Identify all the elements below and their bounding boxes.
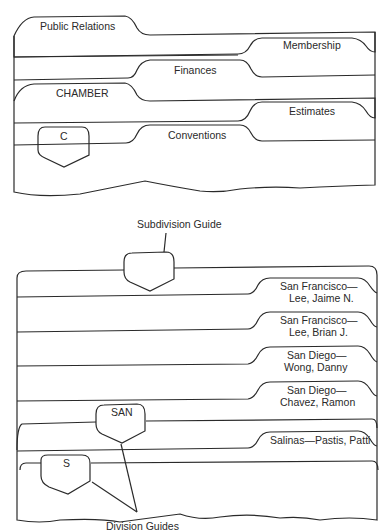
guide-label-c: C xyxy=(60,130,68,142)
tab-label-membership: Membership xyxy=(283,39,341,51)
annotation-subdivision-guide: Subdivision Guide xyxy=(137,218,222,230)
arrow-to-s xyxy=(92,482,137,512)
folder-label-3-line2: Wong, Danny xyxy=(284,361,348,373)
top-file-drawer: Public Relations Membership Finances CHA… xyxy=(14,16,375,196)
tab-label-public-relations: Public Relations xyxy=(40,20,115,32)
arrow-subdivision xyxy=(164,233,166,252)
tab-label-chamber: CHAMBER xyxy=(56,87,109,99)
folder-label-5: Salinas—Pastis, Patti xyxy=(270,434,370,446)
arrow-to-san xyxy=(121,444,137,512)
folder-label-1-line2: Lee, Jaime N. xyxy=(289,292,354,304)
filing-diagram: Public Relations Membership Finances CHA… xyxy=(0,0,390,532)
tab-label-estimates: Estimates xyxy=(289,105,335,117)
guide-label-s: S xyxy=(63,457,70,469)
guide-label-san: SAN xyxy=(111,406,133,418)
tab-label-finances: Finances xyxy=(174,64,217,76)
folder-label-4-line1: San Diego— xyxy=(287,384,347,396)
folder-label-2-line1: San Francisco— xyxy=(280,314,358,326)
annotation-division-guides: Division Guides xyxy=(106,520,179,532)
folder-label-4-line2: Chavez, Ramon xyxy=(280,396,355,408)
folder-label-3-line1: San Diego— xyxy=(287,349,347,361)
bottom-file-drawer: Subdivision Guide San Francisco— Lee, Ja… xyxy=(17,218,378,532)
folder-row-6 xyxy=(20,461,378,470)
folder-label-2-line2: Lee, Brian J. xyxy=(289,326,348,338)
tab-label-conventions: Conventions xyxy=(168,129,226,141)
subdivision-guide xyxy=(124,252,174,291)
folder-label-1-line1: San Francisco— xyxy=(280,280,358,292)
